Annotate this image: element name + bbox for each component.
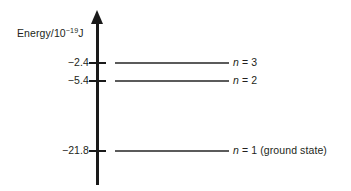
level-label-n1: n = 1 (ground state) (233, 144, 327, 156)
y-axis-label: Energy/10−19J (17, 27, 84, 39)
y-axis-label-unit: J (78, 27, 83, 39)
axis-tick-n2 (89, 80, 106, 82)
level-line-n2 (115, 80, 229, 81)
axis-tick-n1 (89, 150, 106, 152)
energy-axis (96, 22, 99, 185)
tick-label-n3: −2.4 (68, 56, 89, 68)
level-label-n2-value: = 2 (239, 74, 257, 86)
axis-tick-n3 (89, 62, 106, 64)
energy-level-diagram: Energy/10−19J −2.4 n = 3 −5.4 n = 2 −21.… (0, 0, 351, 191)
y-axis-label-base: Energy/10 (17, 27, 66, 39)
level-line-n3 (115, 62, 229, 63)
tick-label-n2: −5.4 (68, 74, 89, 86)
level-label-n2: n = 2 (233, 74, 257, 86)
level-label-n3: n = 3 (233, 56, 257, 68)
y-axis-label-exponent: −19 (66, 26, 79, 35)
level-label-n1-value: = 1 (ground state) (239, 144, 327, 156)
level-label-n3-value: = 3 (239, 56, 257, 68)
tick-label-n1: −21.8 (62, 144, 89, 156)
level-line-n1 (115, 150, 229, 151)
